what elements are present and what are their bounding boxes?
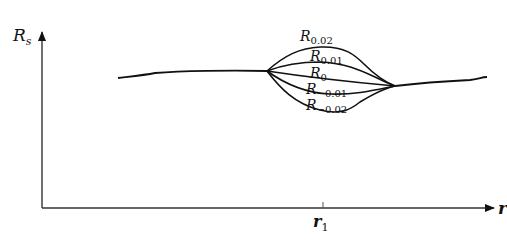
r1-tick-label: r1	[313, 212, 328, 234]
base-curve-left	[118, 71, 267, 78]
curve-r-0	[267, 71, 395, 86]
x-axis-label: r	[498, 198, 507, 218]
rs-vs-r-diagram: Rs r r1 R0.02 R0.01 R0 R−0.01 R−0.02	[0, 0, 507, 241]
y-axis-label: Rs	[12, 25, 32, 48]
curve-label-r-0.01: R0.01	[309, 48, 343, 66]
curve-label-r-neg-0.02: R−0.02	[305, 97, 347, 115]
base-curve-right	[395, 77, 487, 86]
curve-label-r-0.02: R0.02	[299, 28, 333, 46]
